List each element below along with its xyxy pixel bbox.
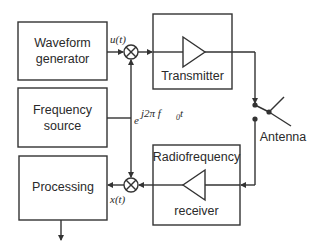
receiver-label-1: Radiofrequency	[153, 150, 241, 164]
waveform-generator-block: Waveform generator	[18, 22, 107, 80]
carrier-tail: t	[180, 107, 184, 119]
carrier-expression: e j2π f 0 t	[134, 107, 184, 126]
antenna-icon	[269, 97, 291, 126]
frequency-source-label-1: Frequency	[33, 103, 93, 117]
processing-label: Processing	[32, 180, 94, 194]
frequency-source-label-2: source	[44, 119, 82, 133]
signal-x-label: x(t)	[109, 193, 126, 206]
transmitter-label: Transmitter	[161, 69, 224, 83]
tx-rx-switch-icon	[252, 102, 271, 121]
carrier-base: e	[134, 114, 139, 126]
frequency-source-block: Frequency source	[18, 88, 107, 147]
signal-u-label: u(t)	[110, 33, 126, 46]
processing-block: Processing	[19, 156, 107, 220]
carrier-exponent: j2π f	[139, 107, 163, 119]
tx-mixer-icon	[124, 45, 138, 59]
waveform-generator-label-1: Waveform	[34, 36, 91, 50]
receiver-label-2: receiver	[174, 204, 218, 218]
waveform-generator-label-2: generator	[36, 52, 90, 66]
antenna-label: Antenna	[260, 130, 307, 144]
block-diagram: Waveform generator Frequency source Proc…	[0, 0, 317, 251]
rx-mixer-icon	[124, 178, 138, 192]
